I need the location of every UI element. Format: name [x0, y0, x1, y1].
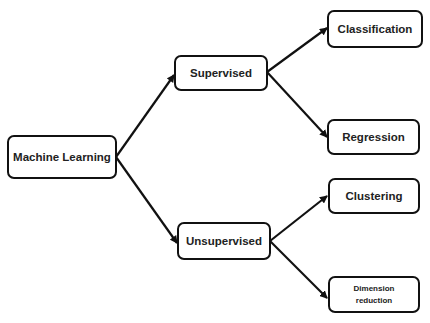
edge-ml-sup [116, 75, 174, 157]
node-label: Regression [342, 130, 405, 144]
node-clustering: Clustering [328, 178, 420, 214]
node-unsupervised: Unsupervised [177, 222, 271, 260]
node-label-line2: reduction [356, 295, 392, 307]
node-regression: Regression [327, 119, 420, 155]
node-machine-learning: Machine Learning [7, 135, 117, 179]
edge-sup-cls [267, 28, 327, 72]
node-dimension-reduction: Dimension reduction [328, 276, 420, 313]
node-label-line1: Dimension [354, 283, 395, 295]
node-supervised: Supervised [174, 55, 268, 91]
edge-unsup-clu [270, 196, 327, 241]
node-label: Supervised [190, 66, 252, 80]
edge-unsup-dim [270, 241, 327, 298]
node-classification: Classification [327, 10, 423, 48]
edge-sup-reg [267, 72, 327, 137]
node-label: Classification [338, 22, 413, 36]
node-label: Clustering [346, 189, 403, 203]
node-label: Machine Learning [13, 150, 111, 164]
node-label: Unsupervised [186, 234, 262, 248]
edge-ml-unsup [116, 157, 177, 243]
